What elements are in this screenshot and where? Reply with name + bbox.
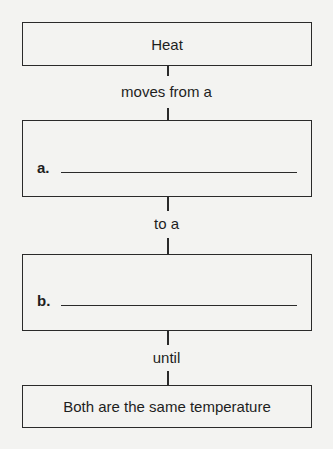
blank-b-answer-line[interactable] [61, 305, 297, 306]
blank-b-letter: b. [37, 293, 61, 309]
heat-label: Heat [151, 36, 183, 53]
result-box: Both are the same temperature [22, 385, 312, 428]
connector-line-3-bottom [167, 371, 169, 385]
blank-a-box: a. [22, 120, 312, 197]
connector-label-moves-from: moves from a [0, 83, 333, 101]
blank-b-row: b. [37, 293, 297, 309]
connector-line-1-top [167, 66, 169, 76]
connector-line-3-top [167, 331, 169, 345]
connector-line-2-bottom [167, 238, 169, 254]
heat-box: Heat [22, 22, 312, 66]
result-label: Both are the same temperature [63, 398, 271, 415]
connector-label-to-a: to a [0, 215, 333, 233]
connector-line-1-bottom [167, 108, 169, 120]
blank-a-answer-line[interactable] [61, 172, 297, 173]
blank-b-box: b. [22, 254, 312, 331]
blank-a-row: a. [37, 160, 297, 176]
connector-label-until: until [0, 349, 333, 367]
connector-line-2-top [167, 197, 169, 211]
blank-a-letter: a. [37, 160, 61, 176]
